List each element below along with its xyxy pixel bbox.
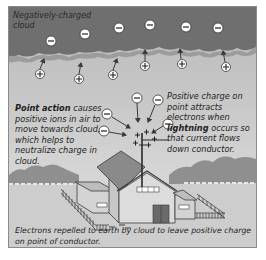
negative-charge-icon — [132, 93, 142, 122]
electrons-approaching-point — [99, 93, 173, 136]
point-action-caption: Point action causes positive ions in air… — [15, 103, 107, 167]
negative-charge-icon — [213, 23, 223, 33]
negative-charge-icon — [148, 95, 163, 122]
lightning-term: lightning — [167, 123, 209, 133]
negative-charge-icon — [114, 23, 124, 33]
positive-ion-icon — [109, 59, 118, 80]
window — [97, 203, 107, 207]
diagram-frame: Negatively-charged cloud Point action ca… — [8, 6, 257, 248]
negative-charge-icon — [145, 20, 155, 30]
positive-ion-icon — [36, 59, 45, 79]
positive-ion-icon — [75, 63, 84, 84]
electrons-repelled-caption: Electrons repelled to earth by cloud to … — [15, 226, 255, 247]
positive-charge-text-pre: Positive charge on point attracts electr… — [167, 91, 243, 122]
window — [179, 205, 189, 209]
cloud-label: Negatively-charged cloud — [13, 11, 93, 31]
positive-charge-caption: Positive charge on point attracts electr… — [167, 91, 257, 155]
negative-charge-icon — [181, 22, 191, 32]
negative-charge-icon — [46, 36, 56, 46]
point-action-term: Point action — [15, 103, 71, 113]
